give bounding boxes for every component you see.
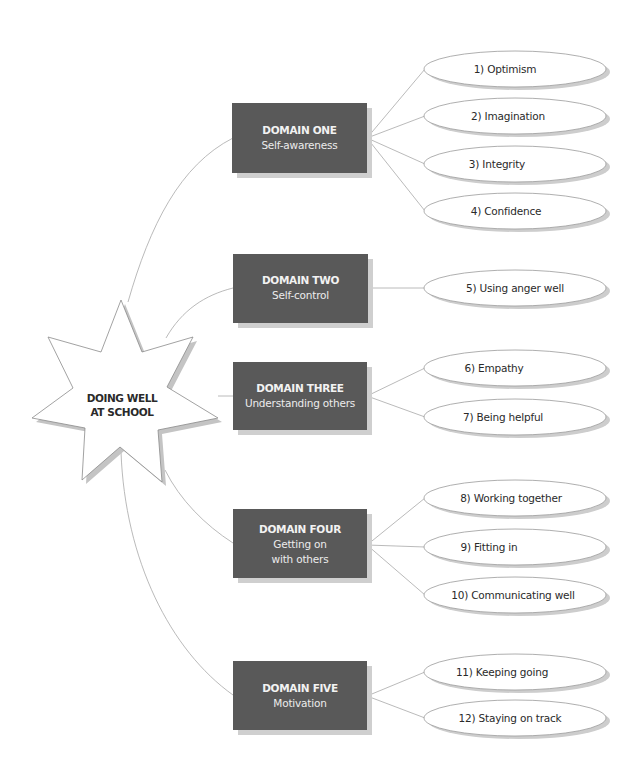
connector-d1-s2 (367, 116, 425, 138)
skill-label: 3) Integrity (469, 158, 525, 170)
mind-map-diagram: DOING WELL AT SCHOOL DOMAIN ONE Self-awa… (0, 0, 640, 782)
skill-working-together: 8) Working together (424, 480, 610, 519)
domain-three-rect (233, 362, 367, 430)
connector-star-domain-five (121, 452, 233, 695)
domain-three-title: DOMAIN THREE (256, 382, 343, 394)
skill-keeping-going: 11) Keeping going (424, 654, 610, 693)
connector-d1-s4 (367, 138, 425, 211)
domain-one-title: DOMAIN ONE (262, 124, 337, 136)
skill-label: 7) Being helpful (463, 411, 543, 423)
domain-one-subtitle: Self-awareness (261, 139, 337, 151)
connector-star-domain-two (166, 288, 233, 338)
domain-one-box: DOMAIN ONE Self-awareness (232, 103, 372, 178)
connector-d1-s1 (367, 69, 425, 138)
domain-five-subtitle: Motivation (273, 697, 326, 709)
connector-star-domain-four (165, 470, 233, 543)
skill-being-helpful: 7) Being helpful (424, 399, 610, 438)
skill-label: 12) Staying on track (459, 712, 563, 724)
skill-label: 5) Using anger well (466, 282, 564, 294)
central-star: DOING WELL AT SCHOOL (32, 300, 222, 486)
skill-optimism: 1) Optimism (424, 51, 610, 90)
domain-four-subtitle-line2: with others (272, 553, 329, 565)
skill-connectors (367, 69, 425, 718)
center-label-line2: AT SCHOOL (90, 406, 154, 418)
skill-communicating-well: 10) Communicating well (424, 577, 610, 616)
connector-d4-s10 (367, 545, 425, 595)
skill-label: 2) Imagination (471, 110, 545, 122)
skill-fitting-in: 9) Fitting in (424, 529, 610, 568)
skill-label: 4) Confidence (471, 205, 542, 217)
connector-d4-s8 (367, 498, 425, 545)
skill-staying-on-track: 12) Staying on track (424, 700, 610, 739)
domain-five-title: DOMAIN FIVE (262, 682, 338, 694)
domain-five-box: DOMAIN FIVE Motivation (233, 661, 372, 735)
domain-four-box: DOMAIN FOUR Getting on with others (233, 509, 372, 583)
domain-two-title: DOMAIN TWO (262, 274, 340, 286)
skill-label: 9) Fitting in (460, 541, 517, 553)
domain-three-box: DOMAIN THREE Understanding others (233, 362, 372, 435)
center-label-line1: DOING WELL (87, 392, 158, 404)
skill-label: 6) Empathy (464, 362, 523, 374)
skill-label: 11) Keeping going (456, 666, 548, 678)
domain-two-subtitle: Self-control (272, 289, 329, 301)
domain-two-box: DOMAIN TWO Self-control (233, 254, 373, 328)
skill-ellipses: 1) Optimism 2) Imagination 3) Integrity … (424, 51, 610, 739)
domain-four-subtitle-line1: Getting on (273, 538, 326, 550)
domain-five-rect (233, 661, 367, 730)
skill-integrity: 3) Integrity (424, 146, 610, 185)
skill-empathy: 6) Empathy (424, 350, 610, 389)
skill-using-anger-well: 5) Using anger well (424, 270, 610, 309)
connector-d5-s12 (367, 696, 425, 718)
skill-label: 8) Working together (460, 492, 563, 504)
connector-d5-s11 (367, 672, 425, 696)
star-shape (32, 300, 218, 482)
skill-imagination: 2) Imagination (424, 98, 610, 137)
connector-d4-s9 (367, 545, 425, 547)
connector-d3-s7 (367, 396, 425, 417)
skill-label: 10) Communicating well (451, 589, 575, 601)
domain-four-title: DOMAIN FOUR (259, 523, 341, 535)
connector-d1-s3 (367, 138, 425, 164)
connector-star-domain-one (128, 138, 233, 302)
skill-label: 1) Optimism (474, 63, 537, 75)
connector-d3-s6 (367, 368, 425, 396)
domain-three-subtitle: Understanding others (245, 397, 355, 409)
domain-one-rect (232, 103, 367, 173)
skill-confidence: 4) Confidence (424, 193, 610, 232)
